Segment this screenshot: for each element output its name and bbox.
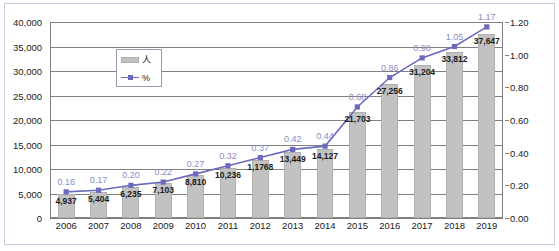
- x-axis-tick-label: 2006: [56, 220, 77, 231]
- x-axis-tick-label: 2010: [185, 220, 206, 231]
- line-data-label: 0.44: [316, 131, 334, 141]
- line-marker: [225, 163, 230, 168]
- y-axis-left-tick-label: 15,000: [13, 139, 42, 150]
- line-marker: [193, 171, 198, 176]
- y-axis-right-tick: [505, 55, 509, 56]
- y-axis-right-tick: [505, 218, 509, 219]
- line-marker: [387, 75, 392, 80]
- y-axis-right-tick-label: 0.00: [510, 213, 529, 224]
- line-data-label: 0.86: [381, 63, 399, 73]
- line-data-label: 0.20: [122, 170, 140, 180]
- x-axis-tick-label: 2012: [250, 220, 271, 231]
- y-axis-left-tick-label: 35,000: [13, 41, 42, 52]
- x-axis-tick-label: 2013: [282, 220, 303, 231]
- y-axis-right-tick-label: 0.20: [510, 180, 529, 191]
- y-axis-right-tick: [505, 185, 509, 186]
- x-axis: 2006200720082009201020112012201320142015…: [50, 220, 503, 236]
- x-axis-tick-label: 2017: [412, 220, 433, 231]
- y-axis-left-tick-label: 30,000: [13, 66, 42, 77]
- x-axis-tick-label: 2016: [379, 220, 400, 231]
- y-axis-right-tick: [505, 120, 509, 121]
- y-axis-right-tick: [505, 153, 509, 154]
- line-marker: [161, 179, 166, 184]
- y-axis-left: 05,00010,00015,00020,00025,00030,00035,0…: [0, 22, 46, 218]
- chart-container: 05,00010,00015,00020,00025,00030,00035,0…: [0, 0, 559, 251]
- y-axis-left-tick-label: 20,000: [13, 115, 42, 126]
- legend-item-line: %: [117, 69, 161, 86]
- line-data-label: 0.32: [219, 151, 237, 161]
- y-axis-right-tick-label: 1.20: [510, 17, 529, 28]
- line-data-label: 0.37: [252, 143, 270, 153]
- plot-area: 4,9375,4046,2357,1038,81010,2361,176813,…: [50, 22, 503, 218]
- bar-data-label: 21,703: [344, 114, 370, 124]
- legend-line-label: %: [142, 73, 150, 83]
- line-marker: [258, 155, 263, 160]
- y-axis-left-tick-label: 0: [37, 213, 42, 224]
- bar-data-label: 27,256: [377, 86, 403, 96]
- gridline: [50, 218, 503, 219]
- y-axis-left-tick-label: 5,000: [18, 188, 42, 199]
- x-axis-tick-label: 2009: [153, 220, 174, 231]
- bar-data-label: 1,1768: [247, 162, 273, 172]
- line-data-label: 1.17: [478, 12, 496, 22]
- y-axis-right-tick-label: 0.80: [510, 82, 529, 93]
- y-axis-right-tick-label: 0.40: [510, 147, 529, 158]
- line-data-label: 0.27: [187, 159, 205, 169]
- y-axis-left-tick-label: 10,000: [13, 164, 42, 175]
- line-marker: [128, 183, 133, 188]
- bar-data-label: 5,404: [88, 194, 109, 204]
- x-axis-tick-label: 2011: [218, 220, 238, 231]
- x-axis-tick-label: 2018: [444, 220, 465, 231]
- x-axis-tick-label: 2008: [120, 220, 141, 231]
- legend-bar-label: 人: [142, 53, 151, 66]
- legend-line-swatch-icon: [121, 74, 139, 82]
- line-data-label: 0.22: [154, 167, 172, 177]
- y-axis-right-tick-label: 1.00: [510, 49, 529, 60]
- bar-data-label: 7,103: [153, 185, 174, 195]
- line-marker: [420, 55, 425, 60]
- line-data-label: 0.17: [90, 175, 108, 185]
- line-marker: [355, 104, 360, 109]
- line-marker: [452, 44, 457, 49]
- bar-data-label: 8,810: [185, 177, 206, 187]
- bar-data-label: 13,449: [280, 154, 306, 164]
- y-axis-left-tick-label: 25,000: [13, 90, 42, 101]
- x-axis-tick-label: 2014: [314, 220, 335, 231]
- y-axis-right: 0.000.200.400.600.801.001.20: [505, 22, 555, 218]
- line-data-label: 0.68: [349, 92, 367, 102]
- line-data-label: 1.05: [446, 32, 464, 42]
- y-axis-left-tick-label: 40,000: [13, 17, 42, 28]
- line-marker: [290, 147, 295, 152]
- bar-data-label: 14,127: [312, 151, 338, 161]
- x-axis-tick-label: 2015: [347, 220, 368, 231]
- bar-data-label: 33,812: [441, 54, 467, 64]
- bar-data-label: 31,204: [409, 67, 435, 77]
- x-axis-tick-label: 2019: [476, 220, 497, 231]
- line-data-label: 0.98: [413, 43, 431, 53]
- line-marker: [64, 189, 69, 194]
- line-marker: [96, 188, 101, 193]
- chart-legend: 人 %: [116, 49, 162, 87]
- y-axis-right-tick: [505, 87, 509, 88]
- legend-item-bar: 人: [117, 51, 161, 68]
- bar-data-label: 10,236: [215, 170, 241, 180]
- y-axis-right-tick: [505, 22, 509, 23]
- line-data-label: 0.16: [57, 177, 75, 187]
- x-axis-tick-label: 2007: [88, 220, 109, 231]
- y-axis-right-tick-label: 0.60: [510, 115, 529, 126]
- legend-bar-swatch-icon: [121, 57, 139, 63]
- line-marker: [322, 144, 327, 149]
- bar-data-label: 37,647: [474, 36, 500, 46]
- line-marker: [484, 24, 489, 29]
- bar-data-label: 6,235: [120, 189, 141, 199]
- line-data-label: 0.42: [284, 134, 302, 144]
- bar-data-label: 4,937: [56, 196, 77, 206]
